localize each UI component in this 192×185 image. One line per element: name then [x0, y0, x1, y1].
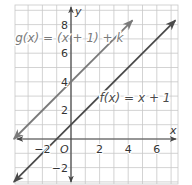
y-axis-label: y: [74, 5, 82, 18]
origin-label: O: [60, 143, 69, 156]
series-label-g: g(x) = (x + 1) + k: [15, 31, 124, 45]
series: g(x) = (x + 1) + kf(x) = x + 1: [14, 20, 176, 182]
series-label-f: f(x) = x + 1: [100, 91, 171, 105]
x-tick-label: 4: [125, 143, 132, 156]
y-tick-label: 4: [61, 76, 68, 89]
x-tick-label: 2: [96, 143, 103, 156]
x-axis-label: x: [169, 124, 177, 137]
y-tick-label: −2: [52, 162, 68, 175]
x-tick-label: 6: [153, 143, 160, 156]
chart: g(x) = (x + 1) + kf(x) = x + 1 −22468642…: [0, 0, 192, 185]
y-tick-label: 2: [61, 104, 68, 117]
y-tick-label: 8: [61, 19, 68, 32]
x-tick-label: −2: [34, 143, 50, 156]
y-tick-label: 6: [61, 47, 68, 60]
